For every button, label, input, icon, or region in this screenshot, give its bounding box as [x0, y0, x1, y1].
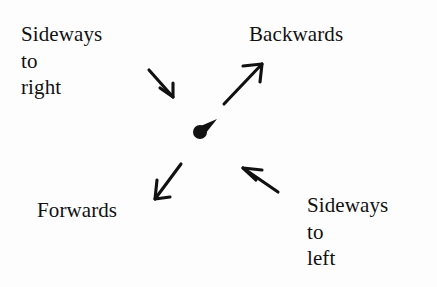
arrow-sideways-to-left	[243, 168, 278, 192]
arrow-graphics-layer	[0, 0, 437, 287]
arrow-sideways-to-right	[149, 70, 173, 97]
center-dot-marker	[193, 119, 217, 139]
arrow-backwards	[224, 64, 262, 104]
direction-arrows-diagram: Sideways to right Backwards Forwards Sid…	[0, 0, 437, 287]
arrow-forwards	[155, 164, 181, 199]
